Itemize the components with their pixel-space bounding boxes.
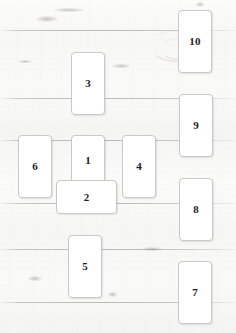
wood-knot [18, 60, 32, 63]
plank-seam [0, 249, 236, 250]
card-4[interactable]: 4 [122, 135, 156, 198]
card-5-number: 5 [82, 261, 88, 272]
wood-knot [112, 64, 130, 68]
card-6-number: 6 [32, 161, 38, 172]
wood-knot [54, 8, 84, 12]
card-8[interactable]: 8 [179, 178, 213, 241]
tarot-spread-canvas: 12345678910 [0, 0, 236, 333]
card-2[interactable]: 2 [56, 180, 117, 214]
wood-knot [36, 16, 58, 22]
card-5[interactable]: 5 [68, 235, 102, 298]
card-9[interactable]: 9 [179, 94, 213, 157]
card-7[interactable]: 7 [178, 261, 212, 324]
card-3[interactable]: 3 [71, 52, 105, 115]
card-1-number: 1 [85, 155, 91, 166]
card-2-number: 2 [84, 192, 90, 203]
wood-knot [196, 2, 204, 7]
card-8-number: 8 [193, 204, 199, 215]
card-6[interactable]: 6 [18, 135, 52, 198]
card-10[interactable]: 10 [178, 10, 212, 73]
wood-knot [108, 292, 117, 297]
card-4-number: 4 [136, 161, 142, 172]
wood-knot [28, 276, 42, 281]
card-3-number: 3 [85, 78, 91, 89]
card-9-number: 9 [193, 120, 199, 131]
card-1[interactable]: 1 [71, 135, 105, 185]
card-10-number: 10 [189, 36, 200, 47]
wood-knot [142, 247, 162, 251]
card-7-number: 7 [192, 287, 198, 298]
